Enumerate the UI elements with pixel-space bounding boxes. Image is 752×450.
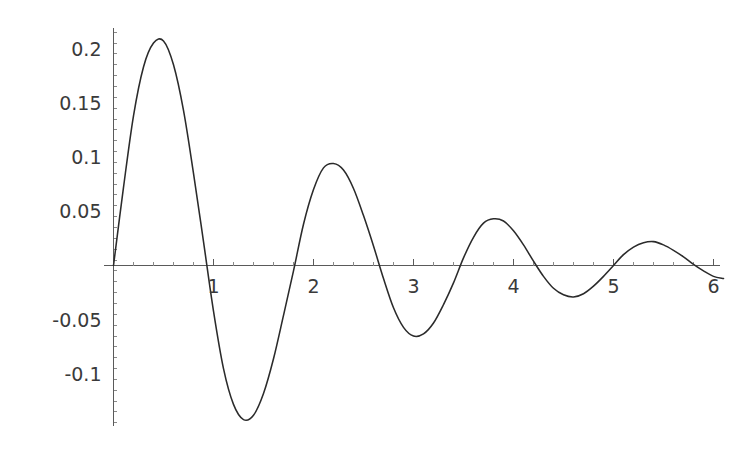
chart-figure: 123456 -0.1-0.050.050.10.150.2	[0, 0, 752, 450]
data-curve	[114, 39, 724, 420]
y-tick-label-group: -0.1-0.050.050.10.150.2	[52, 38, 101, 386]
x-tick-label: 1	[207, 275, 219, 297]
y-tick-label: 0.2	[71, 38, 101, 60]
y-tick-label: -0.05	[52, 309, 101, 331]
y-tick-label: 0.05	[59, 200, 101, 222]
y-tick-label: 0.15	[59, 92, 101, 114]
x-tick-label: 4	[507, 275, 519, 297]
x-tick-label: 6	[707, 275, 719, 297]
x-axis-ticks	[114, 259, 714, 266]
x-tick-label: 5	[607, 275, 619, 297]
x-tick-label: 2	[307, 275, 319, 297]
axes-group	[104, 28, 720, 426]
plot-canvas: 123456 -0.1-0.050.050.10.150.2	[0, 0, 752, 450]
y-tick-label: -0.1	[64, 363, 101, 385]
x-tick-label-group: 123456	[207, 275, 719, 297]
y-tick-label: 0.1	[71, 146, 101, 168]
x-tick-label: 3	[407, 275, 419, 297]
